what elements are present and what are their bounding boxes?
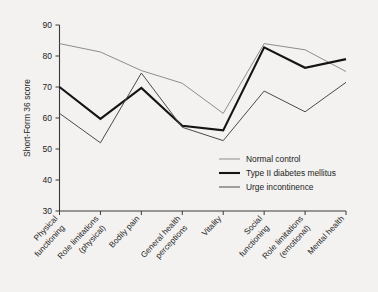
y-tick-label: 30 xyxy=(43,206,53,216)
line-chart-canvas: 30405060708090 PhysicalfunctioningRole l… xyxy=(0,0,378,292)
legend-label-0: Normal control xyxy=(246,154,301,164)
y-axis-title: Short-Form 36 score xyxy=(22,79,32,157)
series-line-2 xyxy=(60,73,347,143)
y-tick-label: 70 xyxy=(43,82,53,92)
x-category-label-text: Vitality xyxy=(200,214,224,238)
x-category-label: Mental health xyxy=(306,214,346,256)
y-tick-label: 60 xyxy=(43,113,53,123)
y-tick-label: 80 xyxy=(43,51,53,61)
chart-legend: Normal controlType II diabetes mellitusU… xyxy=(219,154,336,192)
legend-label-2: Urge incontinence xyxy=(246,182,314,192)
chart-figure: 30405060708090 PhysicalfunctioningRole l… xyxy=(0,0,378,292)
y-tick-label: 90 xyxy=(43,20,53,30)
x-category-label-group: PhysicalfunctioningRole limitations(phys… xyxy=(32,214,346,261)
y-tick-label: 50 xyxy=(43,144,53,154)
legend-label-1: Type II diabetes mellitus xyxy=(246,168,336,178)
x-category-label: Vitality xyxy=(200,214,224,238)
series-group xyxy=(60,44,347,143)
y-axis-title-text: Short-Form 36 score xyxy=(22,79,32,157)
y-axis-title-group: Short-Form 36 score xyxy=(22,79,32,157)
x-category-label: Bodily pain xyxy=(107,214,141,250)
x-category-label-text: Mental health xyxy=(306,214,346,256)
series-line-1 xyxy=(60,47,347,130)
y-tick-label-group: 30405060708090 xyxy=(43,20,53,216)
y-tick-label: 40 xyxy=(43,175,53,185)
series-line-0 xyxy=(60,44,347,114)
x-category-label-text: Bodily pain xyxy=(107,214,141,250)
